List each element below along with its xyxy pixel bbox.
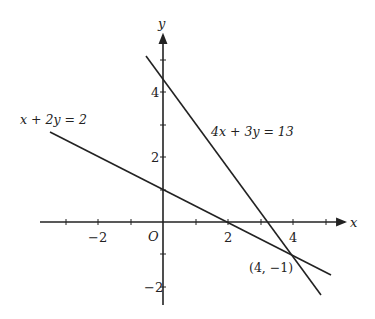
y-tick-label-4: 4 xyxy=(151,85,159,100)
y-tick-label-m2: −2 xyxy=(144,280,163,295)
y-axis-label: y xyxy=(157,16,166,31)
x-tick-label-m2: −2 xyxy=(88,230,107,245)
chart-canvas: x y O −2 2 4 4 2 −2 x + 2y = 2 4x + 3y =… xyxy=(0,0,375,319)
y-tick-label-2: 2 xyxy=(151,150,159,165)
intersection-label: (4, −1) xyxy=(249,260,293,275)
origin-label: O xyxy=(148,229,159,244)
x-axis-label: x xyxy=(350,215,358,230)
line-4x-plus-3y-eq-13 xyxy=(146,56,321,295)
equation-label-line1: x + 2y = 2 xyxy=(20,112,87,127)
x-tick-label-4: 4 xyxy=(289,230,297,245)
line-x-plus-2y-eq-2 xyxy=(50,132,331,275)
equation-label-line2: 4x + 3y = 13 xyxy=(210,124,294,139)
x-tick-label-2: 2 xyxy=(224,230,232,245)
